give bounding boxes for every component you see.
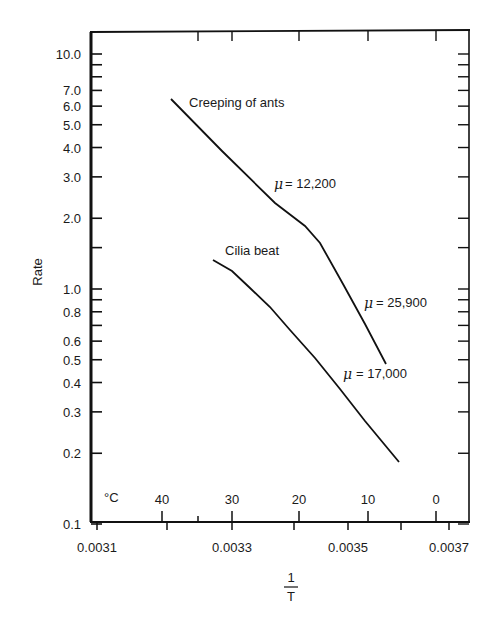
x-tick-label: 0.0037	[429, 540, 469, 555]
x-axis-title: 1 T	[284, 570, 298, 604]
y-tick-label: 0.4	[63, 376, 81, 391]
label-cilia-beat: Cilia beat	[225, 243, 280, 258]
y-tick-labels: 10.07.06.05.04.03.02.01.00.80.60.50.40.3…	[56, 47, 81, 532]
y-tick-label: 3.0	[63, 170, 81, 185]
x-axis-top	[90, 30, 470, 32]
y-ticks-right	[458, 54, 469, 524]
y-tick-label: 1.0	[63, 282, 81, 297]
x-ticks-bottom	[97, 522, 449, 530]
arrhenius-chart: 10.07.06.05.04.03.02.01.00.80.60.50.40.3…	[0, 0, 500, 618]
y-axis-title: Rate	[30, 258, 45, 285]
y-tick-label: 2.0	[63, 211, 81, 226]
celsius-unit-label: °C	[104, 490, 119, 505]
celsius-tick-labels: 403020100	[155, 492, 440, 507]
series-creeping-of-ants	[171, 99, 386, 364]
mu-symbol: μ	[343, 366, 352, 382]
annotation-mu-12200: μ = 12,200	[274, 176, 336, 192]
x-tick-label: 0.0031	[77, 540, 117, 555]
x-axis-numerator: 1	[287, 570, 294, 585]
y-ticks-left	[91, 54, 102, 524]
annotation-mu-17000: μ = 17,000	[343, 366, 407, 382]
y-tick-label: 0.3	[63, 405, 81, 420]
y-tick-label: 0.1	[63, 517, 81, 532]
x-tick-labels: 0.00310.00330.00350.0037	[77, 540, 469, 555]
y-tick-label: 0.5	[63, 353, 81, 368]
celsius-tick-label: 20	[292, 492, 306, 507]
annotation-mu-25900: μ = 25,900	[364, 295, 427, 311]
celsius-tick-label: 30	[225, 492, 239, 507]
mu-symbol: μ	[364, 295, 373, 311]
y-tick-label: 0.8	[63, 305, 81, 320]
y-tick-label: 10.0	[56, 47, 81, 62]
x-tick-label: 0.0033	[212, 540, 252, 555]
mu-value: = 25,900	[376, 295, 427, 310]
celsius-ticks	[162, 511, 436, 522]
x-tick-label: 0.0035	[328, 540, 368, 555]
celsius-tick-label: 10	[361, 492, 375, 507]
y-tick-label: 4.0	[63, 141, 81, 156]
series-cilia-beat	[213, 260, 399, 462]
y-tick-label: 5.0	[63, 118, 81, 133]
celsius-tick-label: 0	[432, 492, 439, 507]
mu-value: = 17,000	[356, 366, 407, 381]
y-tick-label: 0.2	[63, 446, 81, 461]
mu-value: = 12,200	[285, 176, 336, 191]
y-tick-label: 6.0	[63, 99, 81, 114]
celsius-tick-label: 40	[155, 492, 169, 507]
label-creeping-of-ants: Creeping of ants	[189, 95, 285, 110]
y-tick-label: 0.6	[63, 334, 81, 349]
mu-symbol: μ	[274, 176, 283, 192]
top-axis-ticks	[198, 31, 436, 41]
y-tick-label: 7.0	[63, 83, 81, 98]
x-axis-denominator: T	[287, 589, 295, 604]
